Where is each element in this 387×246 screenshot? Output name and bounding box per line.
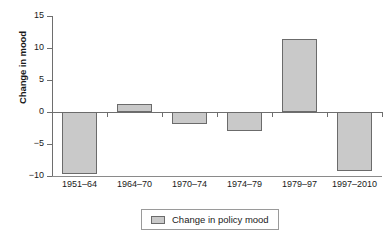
x-axis-label: 1970–74 [172,179,207,189]
y-tick: 10 [47,48,52,49]
y-tick: −5 [47,144,52,145]
x-axis-label: 1951–64 [62,179,97,189]
y-tick-label: 5 [39,74,44,84]
legend-label: Change in policy mood [172,214,269,225]
zero-line [52,112,382,113]
y-tick: 15 [47,16,52,17]
legend: Change in policy mood [141,209,279,230]
bar [62,112,96,174]
y-tick-label: −5 [34,138,44,148]
bar [227,112,261,131]
x-tick [382,112,383,117]
x-axis-label: 1964–70 [117,179,152,189]
y-tick-label: 0 [39,106,44,116]
x-axis-label: 1979–97 [282,179,317,189]
bar [282,39,316,112]
bar [337,112,371,171]
y-axis-line [52,16,53,176]
bar-chart: Change in mood 151050−5−10 1951–641964–7… [0,0,387,246]
x-axis-label: 1997–2010 [332,179,377,189]
legend-swatch-icon [151,216,165,224]
y-axis-title: Change in mood [17,0,28,138]
y-tick-label: 15 [34,10,44,20]
y-tick-label: −10 [29,170,44,180]
plot-area: 151050−5−10 [52,16,382,176]
bar [172,112,206,124]
baseline [52,176,382,177]
y-tick: 5 [47,80,52,81]
y-tick-label: 10 [34,42,44,52]
bar [117,104,151,112]
x-axis-label: 1974–79 [227,179,262,189]
